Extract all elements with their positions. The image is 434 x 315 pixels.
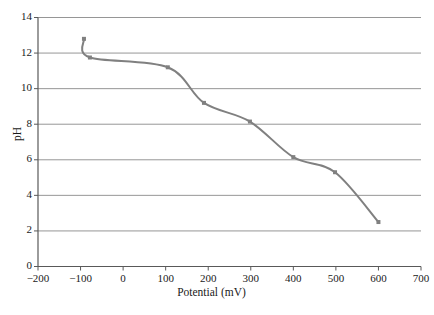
gridlines-group xyxy=(38,18,421,231)
data-point-marker xyxy=(333,170,337,174)
data-point-marker xyxy=(202,101,206,105)
y-tick-label-4: 4 xyxy=(6,188,32,200)
x-axis-title: Potential (mV) xyxy=(0,286,423,298)
data-point-marker xyxy=(88,56,92,60)
y-tick-label-14: 14 xyxy=(6,10,32,22)
y-tick-label-10: 10 xyxy=(6,81,32,93)
y-tick-label-0: 0 xyxy=(6,259,32,271)
x-tick-label-700: 700 xyxy=(396,272,434,284)
y-tick-label-12: 12 xyxy=(6,46,32,58)
data-point-marker xyxy=(291,155,295,159)
y-tick-label-6: 6 xyxy=(6,152,32,164)
data-point-marker xyxy=(376,220,380,224)
data-series-markers xyxy=(82,37,380,224)
data-point-marker xyxy=(82,37,86,41)
data-point-marker xyxy=(248,120,252,124)
data-point-marker xyxy=(166,65,170,69)
y-axis-title: pH xyxy=(11,114,23,154)
data-series-line xyxy=(82,39,378,222)
y-tick-label-2: 2 xyxy=(6,223,32,235)
